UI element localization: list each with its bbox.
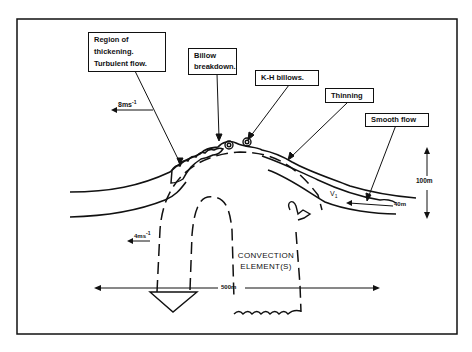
upper-boundary-line — [70, 142, 416, 198]
lower-speed-label: 4ms-1 — [134, 230, 150, 239]
speed-value: 4ms — [134, 233, 146, 239]
convection-right-edge — [296, 232, 301, 312]
label-line: breakdown. — [194, 61, 231, 72]
label-kh-billows: K-H billows. — [255, 70, 319, 86]
thinning-layer-line — [262, 156, 396, 203]
downdraft-arrow — [150, 292, 197, 312]
recirculation-arrow — [289, 202, 310, 220]
velocity-subscript: 1 — [335, 193, 338, 199]
label-line: Turbulent flow. — [94, 58, 160, 70]
layer-thickness-label: 40m — [394, 201, 406, 207]
label-smooth-flow: Smooth flow — [365, 113, 429, 127]
label-line: Billow — [194, 50, 231, 61]
velocity-label: V1 — [330, 190, 337, 199]
label-line: Region of — [94, 34, 160, 46]
frame-border — [17, 19, 457, 334]
label-region-thickening: Region of thickening. Turbulent flow. — [88, 32, 166, 72]
speed-exponent: -1 — [146, 230, 150, 236]
height-scale-label: 100m — [416, 177, 433, 184]
label-line: thickening. — [94, 46, 160, 58]
speed-exponent: -1 — [132, 99, 136, 105]
label-thinning: Thinning — [325, 88, 374, 103]
label-line: CONVECTION — [232, 250, 300, 261]
speed-value: 8ms — [118, 101, 132, 108]
convection-wavy-base — [234, 310, 301, 314]
upper-speed-label: 8ms-1 — [118, 99, 136, 108]
diagram-canvas: Region of thickening. Turbulent flow. Bi… — [0, 0, 472, 352]
label-billow-breakdown: Billow breakdown. — [188, 48, 237, 75]
label-line: ELEMENT(S) — [232, 261, 300, 272]
convection-label: CONVECTION ELEMENT(S) — [232, 250, 300, 272]
layer-thickness-arrow — [349, 203, 393, 206]
lower-boundary-line — [70, 182, 186, 217]
turbulent-region-outline — [171, 148, 223, 183]
width-scale-label: 500m — [221, 284, 236, 290]
